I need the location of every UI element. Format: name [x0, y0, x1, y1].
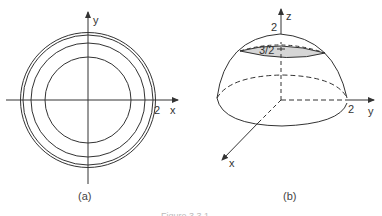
figure-caption: Figure 3.3.1: [161, 211, 209, 216]
top-label-2: 2: [271, 21, 277, 33]
base-front-arc: [217, 98, 347, 126]
x-axis: [222, 122, 259, 160]
y-axis-label: y: [93, 14, 99, 26]
z-axis-label: z: [286, 10, 292, 22]
tick-label-2: 2: [154, 104, 160, 116]
x-axis-label: x: [229, 157, 235, 169]
caption-a: (a): [78, 190, 91, 202]
figure-canvas: y x 2 (a) z 2 3/2 2 y x (b) Figure 3.3.1: [0, 0, 382, 216]
base-back-arc: [217, 75, 347, 98]
cap-region: [240, 46, 325, 58]
caption-b: (b): [283, 190, 296, 202]
x-axis-label: x: [170, 104, 176, 116]
x-axis-hidden: [259, 100, 281, 122]
panel-b: z 2 3/2 2 y x (b): [217, 9, 374, 202]
y-axis-label: y: [368, 105, 374, 117]
panel-a: y x 2 (a): [6, 12, 178, 202]
hemisphere-outline: [217, 34, 347, 98]
y-tick-label-2: 2: [348, 103, 354, 115]
cap-label: 3/2: [259, 44, 274, 56]
